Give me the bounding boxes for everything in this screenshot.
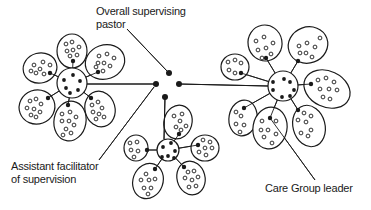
member-circle-icon: [108, 64, 112, 68]
member-circle-icon: [196, 175, 200, 179]
member-circle-icon: [41, 60, 45, 64]
member-circle-icon: [180, 112, 184, 116]
hub-leader-dot: [271, 80, 275, 84]
member-circle-icon: [64, 127, 68, 131]
member-circle-icon: [129, 148, 133, 152]
member-circle-icon: [105, 52, 109, 56]
member-circle-icon: [259, 128, 263, 132]
member-circle-icon: [242, 123, 246, 127]
member-circle-icon: [32, 63, 36, 67]
member-circle-icon: [302, 111, 306, 115]
hub-leader-dot: [71, 73, 75, 77]
care-group-leader-label: Care Group leader: [265, 182, 353, 195]
member-circle-icon: [197, 150, 201, 154]
member-circle-icon: [67, 119, 71, 123]
member-circle-icon: [271, 41, 275, 45]
member-circle-icon: [77, 45, 81, 49]
assistant-label-line1: Assistant facilitator: [11, 160, 99, 173]
member-circle-icon: [296, 118, 300, 122]
member-circle-icon: [324, 76, 328, 80]
member-circle-icon: [135, 140, 139, 144]
connection-line: [179, 84, 268, 86]
pastor-label: Overall supervising pastor: [96, 5, 186, 31]
member-circle-icon: [190, 178, 194, 182]
member-circle-icon: [136, 149, 140, 153]
member-circle-icon: [132, 155, 136, 159]
member-circle-icon: [70, 40, 74, 44]
member-circle-icon: [298, 51, 302, 55]
member-circle-icon: [34, 71, 38, 75]
hub-leader-dot: [292, 88, 296, 92]
member-circle-icon: [100, 106, 104, 110]
member-circle-icon: [60, 119, 64, 123]
member-circle-icon: [256, 48, 260, 52]
member-circle-icon: [29, 69, 33, 73]
member-circle-icon: [128, 141, 132, 145]
member-circle-icon: [262, 35, 266, 39]
member-circle-icon: [332, 80, 336, 84]
hub-leader-dot: [166, 154, 170, 158]
member-circle-icon: [64, 42, 68, 46]
member-circle-icon: [203, 146, 207, 150]
member-circle-icon: [102, 115, 106, 119]
member-circle-icon: [321, 95, 325, 99]
member-circle-icon: [91, 110, 95, 114]
member-circle-icon: [146, 192, 150, 196]
supervision-hub-circle: [57, 68, 87, 98]
hub-leader-dot: [172, 156, 176, 160]
member-circle-icon: [304, 51, 308, 55]
member-circle-icon: [299, 131, 303, 135]
member-circle-icon: [201, 138, 205, 142]
member-circle-icon: [179, 128, 183, 132]
member-circle-icon: [32, 107, 36, 111]
member-circle-icon: [310, 55, 314, 59]
member-circle-icon: [187, 185, 191, 189]
hub-leader-dot: [288, 94, 292, 98]
member-circle-icon: [61, 133, 65, 137]
member-circle-icon: [274, 119, 278, 123]
member-circle-icon: [327, 87, 331, 91]
member-circle-icon: [204, 153, 208, 157]
member-circle-icon: [226, 60, 230, 64]
hub-leader-dot: [169, 141, 173, 145]
member-circle-icon: [194, 184, 198, 188]
member-circle-icon: [208, 140, 212, 144]
pastor-label-line2: pastor: [96, 18, 186, 31]
member-circle-icon: [254, 39, 258, 43]
member-circle-icon: [239, 114, 243, 118]
pastor-node-dot: [176, 81, 182, 87]
member-circle-icon: [262, 135, 266, 139]
member-circle-icon: [60, 112, 64, 116]
member-circle-icon: [102, 61, 106, 65]
hub-leader-dot: [160, 155, 164, 159]
hub-leader-dot: [288, 80, 292, 84]
supervision-diagram: Overall supervising pastor Assistant fac…: [0, 0, 371, 210]
member-circle-icon: [172, 114, 176, 118]
member-circle-icon: [234, 122, 238, 126]
member-circle-icon: [101, 69, 105, 73]
assistant-label-line2: of supervision: [11, 173, 99, 186]
member-circle-icon: [335, 88, 339, 92]
member-circle-icon: [153, 177, 157, 181]
member-circle-icon: [234, 110, 238, 114]
hub-leader-dot: [173, 149, 177, 153]
member-circle-icon: [94, 65, 98, 69]
member-circle-icon: [25, 106, 29, 110]
label-pointer-line: [127, 29, 167, 71]
member-circle-icon: [29, 113, 33, 117]
member-circle-icon: [34, 115, 38, 119]
member-circle-icon: [147, 178, 151, 182]
member-circle-icon: [318, 36, 322, 40]
member-circle-icon: [238, 130, 242, 134]
member-circle-icon: [94, 117, 98, 121]
member-circle-icon: [260, 56, 264, 60]
member-circle-icon: [38, 110, 42, 114]
member-circle-icon: [184, 124, 188, 128]
member-circle-icon: [68, 110, 72, 114]
member-circle-icon: [39, 102, 43, 106]
member-circle-icon: [313, 45, 317, 49]
member-circle-icon: [269, 52, 273, 56]
member-circle-icon: [139, 178, 143, 182]
member-circle-icon: [97, 112, 101, 116]
member-circle-icon: [65, 49, 69, 53]
